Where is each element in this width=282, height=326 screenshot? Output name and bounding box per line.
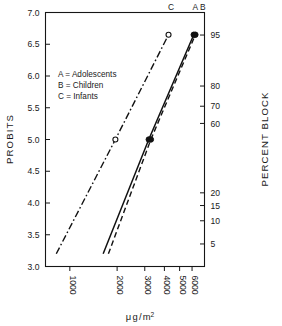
x-axis-title: μg/m2 bbox=[126, 311, 155, 322]
right-tick-label: 60 bbox=[211, 119, 221, 129]
right-tick-label: 20 bbox=[211, 188, 221, 198]
legend-item-c: C = Infants bbox=[58, 92, 98, 101]
left-tick-label: 6.0 bbox=[28, 71, 40, 81]
legend: A = AdolescentsB = ChildrenC = Infants bbox=[58, 70, 117, 101]
left-tick-label: 4.0 bbox=[28, 198, 40, 208]
x-tick-label: 1000 bbox=[68, 276, 78, 295]
y-axis-title: PROBITS bbox=[4, 114, 15, 164]
curve-end-label-b: B bbox=[200, 2, 206, 12]
left-tick-label: 5.5 bbox=[28, 103, 40, 113]
left-tick-label: 3.5 bbox=[28, 230, 40, 240]
left-tick-label: 7.0 bbox=[28, 8, 40, 18]
data-point-b bbox=[148, 137, 153, 142]
x-tick-label: 5000 bbox=[178, 276, 188, 295]
right-tick-label: 5 bbox=[211, 239, 216, 249]
x-axis-tick-labels: 100020003000400050006000 bbox=[68, 276, 200, 295]
right-tick-label: 10 bbox=[211, 216, 221, 226]
right-axis-tick-labels: 958070602015105 bbox=[211, 30, 221, 249]
series-line-c bbox=[56, 35, 168, 254]
curve-end-label-a: A bbox=[192, 2, 198, 12]
probit-chart-figure: 3.03.54.04.55.05.56.06.57.0 958070602015… bbox=[0, 0, 282, 326]
right-tick-label: 95 bbox=[211, 30, 221, 40]
right-tick-label: 70 bbox=[211, 101, 221, 111]
left-axis-tick-labels: 3.03.54.04.55.05.56.06.57.0 bbox=[28, 8, 40, 272]
right-tick-label: 15 bbox=[211, 201, 221, 211]
left-tick-label: 6.5 bbox=[28, 39, 40, 49]
left-tick-label: 3.0 bbox=[28, 262, 40, 272]
x-tick-label: 6000 bbox=[190, 276, 200, 295]
right-axis-ticks bbox=[200, 35, 205, 244]
curve-end-label-c: C bbox=[168, 2, 174, 12]
chart-svg: 3.03.54.04.55.05.56.06.57.0 958070602015… bbox=[0, 0, 282, 326]
data-point-c bbox=[166, 32, 171, 37]
series-layer bbox=[56, 35, 195, 254]
x-axis-ticks bbox=[70, 267, 192, 272]
y2-axis-title: PERCENT BLOCK bbox=[259, 91, 270, 186]
x-tick-label: 4000 bbox=[162, 276, 172, 295]
curve-end-labels: ABC bbox=[168, 2, 206, 12]
left-axis-ticks bbox=[46, 44, 51, 235]
x-tick-label: 3000 bbox=[143, 276, 153, 295]
left-tick-label: 4.5 bbox=[28, 166, 40, 176]
legend-item-a: A = Adolescents bbox=[58, 70, 117, 79]
legend-item-b: B = Children bbox=[58, 81, 104, 90]
x-tick-label: 2000 bbox=[115, 276, 125, 295]
data-point-c bbox=[113, 137, 118, 142]
left-tick-label: 5.0 bbox=[28, 135, 40, 145]
right-tick-label: 80 bbox=[211, 81, 221, 91]
data-point-b bbox=[193, 32, 198, 37]
